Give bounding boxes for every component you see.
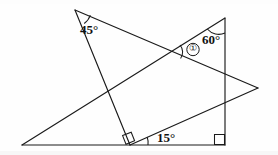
geometry-figure: 45° 60° 15° ①	[0, 0, 278, 155]
angle-arc-icon-15	[147, 137, 148, 145]
right-angle-square-icon-corner	[215, 135, 225, 145]
marked-angle-label: ①	[189, 44, 197, 53]
geometry-canvas	[0, 0, 278, 155]
segment-base-left-to-apex-right	[22, 18, 225, 145]
angle-label-15: 15°	[157, 131, 175, 144]
segment-foot-to-right-vertex	[130, 88, 258, 145]
angle-label-45: 45°	[80, 23, 98, 36]
angle-label-60: 60°	[202, 33, 220, 46]
angle-arc-icon-marked	[180, 45, 183, 59]
